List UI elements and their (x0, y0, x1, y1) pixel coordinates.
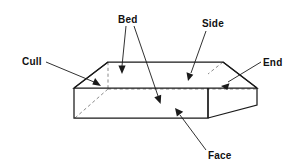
label-face: Face (208, 150, 232, 161)
end-face-fill (208, 88, 257, 118)
face-leader-line (180, 115, 206, 150)
label-cull: Cull (22, 56, 42, 67)
label-end: End (263, 57, 283, 68)
cull-leader-line (46, 62, 94, 82)
top-face-fill (74, 62, 257, 88)
block-solid (74, 62, 257, 118)
bed-leader-line-left (122, 26, 126, 66)
diagram-canvas: Bed Side End Face Cull (0, 0, 293, 166)
label-bed: Bed (118, 14, 138, 25)
front-face-fill (74, 88, 208, 118)
lumber-surfaces-diagram: Bed Side End Face Cull (0, 0, 293, 166)
label-side: Side (202, 18, 224, 29)
